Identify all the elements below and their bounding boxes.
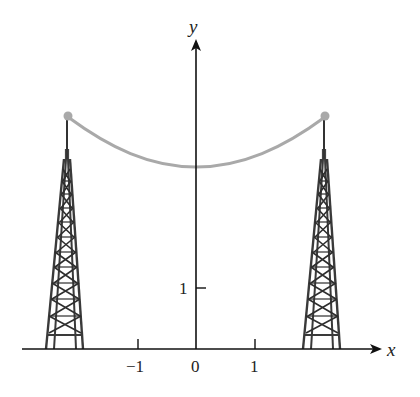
x-tick-label-0: 0: [191, 357, 200, 376]
left-tower: [46, 116, 83, 349]
right-tower: [303, 116, 340, 349]
left-anchor-point: [64, 112, 73, 121]
y-axis-label: y: [187, 16, 198, 37]
catenary-diagram: y x −1 0 1 1: [0, 0, 420, 397]
right-anchor-point: [321, 112, 330, 121]
x-axis-label: x: [386, 339, 396, 360]
x-tick-label-1: 1: [250, 357, 259, 376]
y-axis: [191, 39, 206, 349]
y-tick-label-1: 1: [179, 279, 188, 298]
x-tick-label-neg1: −1: [126, 357, 144, 376]
